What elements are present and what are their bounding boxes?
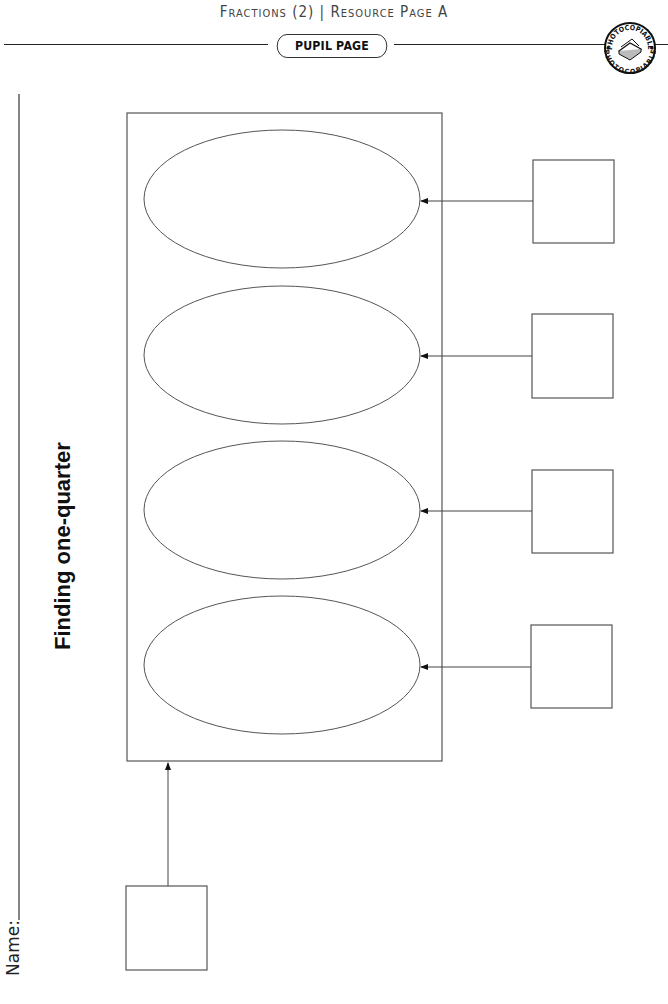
quarter-ellipse-3[interactable] (144, 441, 420, 579)
answer-box-2[interactable] (532, 314, 613, 398)
quarter-ellipse-4[interactable] (144, 596, 420, 734)
answer-box-3[interactable] (532, 470, 613, 553)
answer-box-1[interactable] (533, 160, 614, 243)
start-number-box[interactable] (126, 886, 207, 970)
whole-container-box (127, 113, 442, 761)
quarter-ellipse-2[interactable] (144, 286, 420, 424)
answer-box-4[interactable] (531, 625, 612, 708)
name-label: Name: (3, 920, 23, 976)
worksheet-title: Finding one-quarter (50, 442, 76, 650)
quarter-ellipse-1[interactable] (144, 130, 420, 268)
fraction-diagram (0, 0, 668, 1004)
